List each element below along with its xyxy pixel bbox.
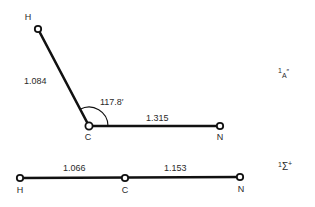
atom-h-linear: [17, 175, 23, 181]
atom-label-c-linear: C: [122, 185, 129, 195]
atom-h-bent: [35, 26, 41, 32]
bent-structure: H C N 1.084 1.315 117.8′ 1A″: [24, 12, 290, 142]
bond-length-c-n-linear: 1.153: [164, 163, 187, 173]
atom-label-h-linear: H: [17, 185, 24, 195]
state-suffix-linear: +: [288, 160, 292, 167]
bond-angle-label: 117.8′: [100, 97, 124, 107]
atom-c-bent: [85, 122, 92, 129]
state-suffix-bent: ″: [287, 68, 290, 75]
bond-h-c-n-linear: [20, 177, 240, 178]
atom-n-linear: [237, 174, 243, 180]
atom-label-c-bent: C: [85, 132, 92, 142]
molecular-geometry-diagram: H C N 1.084 1.315 117.8′ 1A″ H C N 1.066…: [0, 0, 315, 207]
state-label-bent: 1A″: [278, 67, 290, 79]
atom-n-bent: [217, 123, 223, 129]
atom-c-linear: [122, 175, 128, 181]
atom-label-n-bent: N: [217, 132, 224, 142]
bond-length-h-c-bent: 1.084: [24, 76, 47, 86]
atom-label-h-bent: H: [25, 12, 32, 22]
bond-length-c-n-bent: 1.315: [146, 113, 169, 123]
state-label-linear: 1Σ+: [278, 160, 292, 172]
bond-length-h-c-linear: 1.066: [63, 163, 86, 173]
linear-structure: H C N 1.066 1.153 1Σ+: [17, 160, 292, 195]
atom-label-n-linear: N: [238, 184, 245, 194]
